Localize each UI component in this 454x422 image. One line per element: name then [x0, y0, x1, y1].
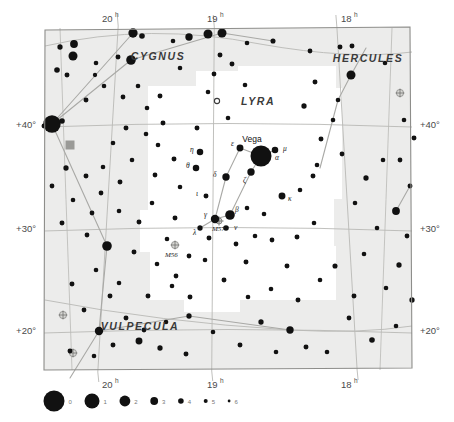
- star-marker: [150, 201, 155, 206]
- ra-label-sup: h: [220, 377, 224, 384]
- star-marker: [85, 233, 90, 238]
- star-marker: [59, 118, 65, 124]
- star-marker: [111, 141, 116, 146]
- star-marker: [253, 234, 258, 239]
- star-marker: [174, 274, 179, 279]
- star-marker: [308, 49, 313, 54]
- star-marker: [43, 115, 60, 132]
- star-marker: [270, 38, 275, 43]
- star-marker: [243, 83, 248, 88]
- star-greek-label: β: [234, 205, 239, 214]
- star-marker: [188, 295, 193, 300]
- star-marker: [170, 284, 175, 289]
- star-marker: [369, 337, 375, 343]
- star-marker: [70, 40, 78, 48]
- star-marker: [206, 90, 211, 95]
- star-marker: [69, 52, 78, 61]
- dec-axis-label-left-20: +20°: [16, 325, 36, 336]
- star-marker: [211, 330, 216, 335]
- star-marker: [90, 211, 95, 216]
- legend-star-0: [44, 391, 65, 412]
- star-marker: [172, 157, 177, 162]
- star-marker: [331, 118, 336, 123]
- star-marker: [117, 209, 122, 214]
- star-marker: [245, 41, 250, 46]
- legend-star-4: [178, 398, 184, 404]
- star-marker: [270, 238, 275, 243]
- star-marker: [226, 116, 231, 121]
- star-marker: [102, 84, 107, 89]
- constellation-label-lyra: LYRA: [241, 95, 275, 107]
- star-marker: [222, 278, 227, 283]
- star-marker: [207, 236, 212, 241]
- star-marker: [362, 252, 367, 257]
- dec-axis-label-left-30: +30°: [16, 223, 36, 234]
- star-marker: [313, 80, 318, 85]
- star-marker: [165, 237, 170, 242]
- constellation-label-vulpecula: VULPECULA: [101, 320, 180, 332]
- star-marker: [111, 343, 116, 348]
- star-marker: [101, 165, 106, 170]
- star-marker: [295, 235, 300, 240]
- star-name-vega: Vega: [242, 134, 262, 144]
- star-marker: [212, 72, 217, 77]
- star-marker: [178, 66, 183, 71]
- star-marker: [63, 165, 68, 170]
- star-marker: [102, 241, 112, 251]
- star-marker: [392, 207, 400, 215]
- star-marker: [136, 84, 141, 89]
- star-marker: [203, 258, 208, 263]
- star-greek-label: η: [190, 145, 194, 154]
- star-marker: [108, 294, 113, 299]
- star-marker: [42, 124, 47, 129]
- star-marker: [244, 260, 249, 265]
- star-greek-label: θ: [186, 161, 190, 170]
- star-marker: [50, 184, 55, 189]
- star-marker: [204, 30, 213, 39]
- star-marker: [286, 326, 293, 333]
- star-marker: [396, 262, 401, 267]
- constellation-label-cygnus: CYGNUS: [131, 50, 186, 62]
- star-marker: [139, 33, 145, 39]
- star-marker: [218, 53, 223, 58]
- star-marker: [173, 216, 178, 221]
- dec-axis-label-left-40: +40°: [16, 119, 36, 130]
- star-marker: [144, 132, 149, 137]
- star-marker: [350, 44, 355, 49]
- star-marker: [195, 126, 200, 131]
- star-marker: [318, 278, 323, 283]
- star-marker: [296, 298, 301, 303]
- dso-label-m57: M57: [211, 225, 225, 233]
- star-greek-label: ι: [196, 189, 198, 198]
- star-marker: [178, 185, 183, 190]
- star-marker: [171, 39, 176, 44]
- star-marker: [398, 158, 403, 163]
- star-marker: [238, 343, 243, 348]
- star-marker: [158, 94, 163, 99]
- legend-star-2: [120, 396, 131, 407]
- star-marker: [246, 295, 251, 300]
- star-marker: [84, 174, 89, 179]
- star-marker: [408, 184, 413, 189]
- star-marker: [218, 29, 227, 38]
- star-marker: [352, 294, 357, 299]
- star-marker: [274, 350, 279, 355]
- star-marker: [116, 55, 121, 60]
- star-marker: [145, 106, 150, 111]
- ra-label-text: 18: [341, 13, 352, 24]
- star-marker: [185, 33, 192, 40]
- star-greek-label: κ: [288, 194, 292, 203]
- star-marker: [57, 44, 62, 49]
- legend-star-3: [150, 397, 158, 405]
- star-marker: [197, 149, 203, 155]
- star-marker: [230, 62, 235, 67]
- star-marker: [130, 158, 135, 163]
- star-marker: [184, 352, 189, 357]
- star-marker: [347, 71, 356, 80]
- star-marker: [225, 210, 235, 220]
- open-cluster-marker: [66, 141, 75, 150]
- star-chart: CYGNUSHERCULESLYRAVULPECULAVegaαηθιδεμζκ…: [0, 0, 454, 422]
- star-marker: [68, 349, 73, 354]
- star-marker: [153, 173, 158, 178]
- star-marker: [124, 126, 129, 131]
